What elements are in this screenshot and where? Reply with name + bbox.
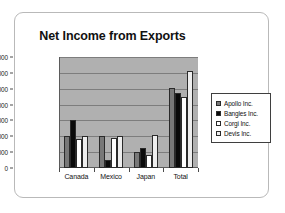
x-axis-category-label: Total (163, 173, 198, 185)
bar-group (94, 57, 129, 168)
bar[interactable] (82, 136, 88, 168)
x-axis-category-label: Mexico (94, 173, 129, 185)
y-axis-tick-label: 5,000,000 (0, 85, 8, 92)
y-axis-tick-label: 7,000,000 (0, 54, 8, 61)
y-axis-tick-mark (10, 104, 13, 105)
y-axis-tick-label: 6,000,000 (0, 69, 8, 76)
legend-item[interactable]: Bangles Inc. (216, 108, 267, 118)
y-axis-tick-label: 4,000,000 (0, 101, 8, 108)
legend-item[interactable]: Apollo Inc. (216, 98, 267, 108)
y-axis-tick-mark (10, 152, 13, 153)
x-axis-labels: CanadaMexicoJapanTotal (59, 173, 198, 185)
legend-swatch-icon (216, 131, 221, 136)
x-axis-tick-mark (59, 168, 60, 172)
bar-group (129, 57, 164, 168)
legend-item[interactable]: Devis Inc. (216, 128, 267, 138)
y-axis: 7,000,0006,000,0005,000,0004,000,0003,00… (0, 57, 13, 168)
legend-swatch-icon (216, 101, 221, 106)
y-axis-tick-label: 1,000,000 (0, 149, 8, 156)
chart-card: Net Income from Exports 7,000,0006,000,0… (14, 12, 269, 198)
x-axis-tick-mark (129, 168, 130, 172)
y-axis-tick-label: 3,000,000 (0, 117, 8, 124)
y-axis-tick-mark (10, 72, 13, 73)
legend-swatch-icon (216, 111, 221, 116)
legend-item-label: Corgi Inc. (224, 120, 250, 127)
legend-swatch-icon (216, 121, 221, 126)
legend-item[interactable]: Corgi Inc. (216, 118, 267, 128)
x-axis-tick-mark (94, 168, 95, 172)
x-axis-ticks (59, 168, 198, 172)
bar[interactable] (117, 136, 123, 169)
y-axis-tick-mark (10, 168, 13, 169)
bar[interactable] (187, 71, 193, 168)
bar-group (59, 57, 94, 168)
y-axis-tick-mark (10, 57, 13, 58)
y-axis-tick-mark (10, 120, 13, 121)
bar-group (163, 57, 198, 168)
legend-item-label: Bangles Inc. (224, 110, 258, 117)
plot-wrapper (59, 57, 198, 168)
y-axis-tick-mark (10, 88, 13, 89)
chart-legend: Apollo Inc.Bangles Inc.Corgi Inc.Devis I… (211, 93, 271, 143)
y-axis-tick-mark (10, 136, 13, 137)
bar[interactable] (152, 135, 158, 168)
legend-item-label: Devis Inc. (224, 130, 251, 137)
chart-title: Net Income from Exports (15, 29, 210, 43)
bars-layer (59, 57, 198, 168)
x-axis-category-label: Canada (59, 173, 94, 185)
legend-item-label: Apollo Inc. (224, 100, 253, 107)
x-axis-category-label: Japan (129, 173, 164, 185)
x-axis-tick-mark (163, 168, 164, 172)
x-axis-tick-mark (198, 168, 199, 172)
y-axis-tick-label: 0 (5, 165, 8, 172)
y-axis-tick-label: 2,000,000 (0, 133, 8, 140)
